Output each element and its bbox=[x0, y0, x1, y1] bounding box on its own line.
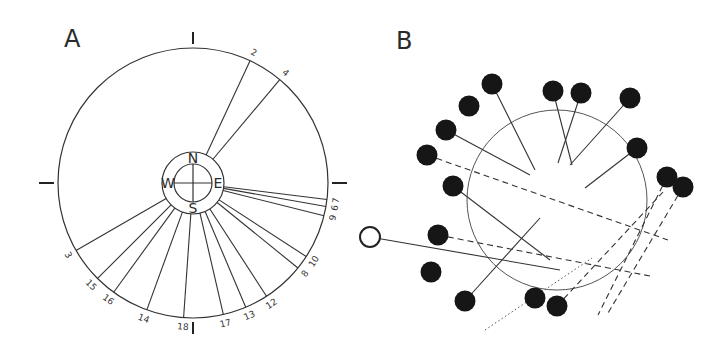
bearing-ray bbox=[210, 209, 267, 296]
bearing-label: 9 bbox=[327, 214, 338, 222]
bearing-label: 13 bbox=[242, 309, 256, 323]
bearing-ray bbox=[205, 212, 246, 308]
filled-dot-icon bbox=[627, 138, 648, 159]
bearing-ray bbox=[98, 205, 172, 279]
panel-b: B bbox=[360, 27, 694, 330]
panel-a: A 24769108121317181416153 N S E W bbox=[39, 25, 347, 334]
bearing-label: 6 bbox=[329, 204, 340, 212]
bearing-label: 12 bbox=[264, 296, 279, 311]
bearing-ray bbox=[114, 208, 175, 292]
dashed-line bbox=[598, 177, 667, 315]
bearing-label: 3 bbox=[63, 250, 75, 260]
bearing-label: 2 bbox=[249, 47, 258, 58]
filled-dot-icon bbox=[620, 88, 641, 109]
filled-dot-icon bbox=[543, 81, 564, 102]
solid-line bbox=[558, 93, 581, 163]
filled-dot-icon bbox=[482, 74, 503, 95]
bearing-label: 15 bbox=[84, 277, 99, 292]
filled-dot-icon bbox=[436, 120, 457, 141]
solid-line bbox=[492, 84, 535, 170]
filled-dot-icon bbox=[525, 288, 546, 309]
dashed-line bbox=[557, 192, 663, 306]
bearing-ray bbox=[76, 199, 166, 251]
filled-dot-icon bbox=[455, 291, 476, 312]
bearing-label: 10 bbox=[306, 254, 321, 269]
solid-line bbox=[570, 98, 630, 165]
compass-west-label: W bbox=[161, 175, 175, 191]
bearing-ray bbox=[184, 214, 191, 318]
bearing-label: 8 bbox=[299, 268, 311, 279]
bearing-label: 4 bbox=[280, 67, 291, 79]
filled-dot-icon bbox=[421, 262, 442, 283]
panel-a-label: A bbox=[64, 25, 81, 53]
solid-line bbox=[465, 218, 540, 301]
filled-dot-icon bbox=[443, 176, 464, 197]
panel-b-solid-lines bbox=[370, 84, 637, 301]
filled-dot-icon bbox=[571, 83, 592, 104]
bearing-ray bbox=[147, 212, 183, 310]
panel-b-circle bbox=[467, 110, 647, 290]
compass-south-label: S bbox=[189, 200, 198, 216]
compass-east-label: E bbox=[214, 175, 223, 191]
filled-dot-icon bbox=[673, 177, 694, 198]
bearing-label: 14 bbox=[137, 312, 151, 325]
bearing-label: 17 bbox=[219, 317, 232, 329]
bearing-label: 18 bbox=[177, 321, 189, 332]
compass-north-label: N bbox=[188, 150, 198, 166]
filled-dot-icon bbox=[417, 145, 438, 166]
bearing-ray bbox=[217, 203, 298, 268]
bearing-label: 7 bbox=[331, 197, 342, 204]
solid-line bbox=[446, 130, 530, 175]
bearing-label: 16 bbox=[101, 292, 116, 307]
dashed-line bbox=[427, 155, 668, 240]
panel-a-rays: 24769108121317181416153 bbox=[63, 47, 342, 332]
filled-dot-icon bbox=[547, 296, 568, 317]
filled-dot-icon bbox=[428, 225, 449, 246]
filled-dot-icon bbox=[459, 96, 480, 117]
open-circle-marker-icon bbox=[360, 227, 380, 247]
diagram-canvas: A 24769108121317181416153 N S E W B bbox=[0, 0, 725, 349]
dashed-line bbox=[608, 187, 683, 313]
bearing-ray bbox=[200, 213, 223, 314]
panel-b-label: B bbox=[396, 27, 412, 55]
